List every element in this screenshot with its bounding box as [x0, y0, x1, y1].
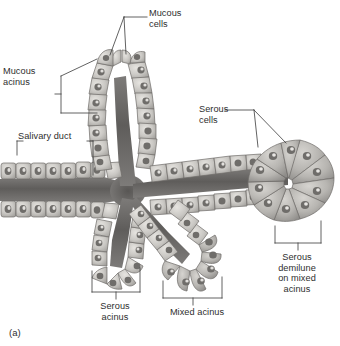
- label-serous-cells: Serous cells: [199, 104, 253, 125]
- label-salivary-duct: Salivary duct: [18, 131, 96, 142]
- label-serous-acinus: Serous acinus: [84, 301, 146, 322]
- label-serous-demilune: Serous demilune on mixed acinus: [262, 252, 332, 294]
- panel-letter: (a): [9, 328, 39, 339]
- duct-cells-lower-row: [1, 201, 119, 219]
- label-mixed-acinus: Mixed acinus: [159, 307, 235, 318]
- serous-demilune-structure: [248, 140, 334, 221]
- label-mucous-cells: Mucous cells: [149, 8, 219, 29]
- label-mucous-acinus: Mucous acinus: [3, 66, 59, 87]
- mucous-cells-leader: [110, 17, 147, 55]
- salivary-duct-lumen: [0, 177, 128, 203]
- serous-demilune-bracket: [275, 221, 321, 250]
- mucous-cells-left-wall: [88, 63, 113, 171]
- salivary-gland-figure: Mucous cells Mucous acinus Salivary duct…: [0, 0, 340, 346]
